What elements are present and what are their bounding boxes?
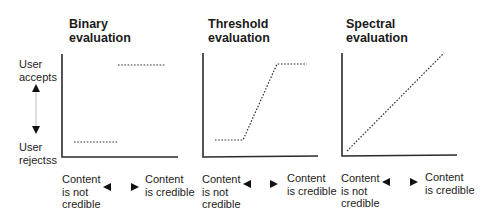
- y-double-arrow-icon: [32, 84, 40, 134]
- axes-threshold: [203, 53, 318, 157]
- diagram-graphics: [0, 0, 483, 214]
- curve-threshold: [215, 64, 307, 140]
- x-arrows-binary-icon: [103, 183, 139, 191]
- chart-threshold: [203, 53, 318, 157]
- axes-spectral: [342, 53, 457, 156]
- x-arrows-threshold-icon: [243, 180, 278, 188]
- curve-spectral: [347, 53, 444, 151]
- x-arrows-spectral-icon: [382, 178, 418, 186]
- chart-binary: [62, 54, 178, 157]
- axes-binary: [62, 54, 178, 157]
- chart-spectral: [342, 53, 457, 156]
